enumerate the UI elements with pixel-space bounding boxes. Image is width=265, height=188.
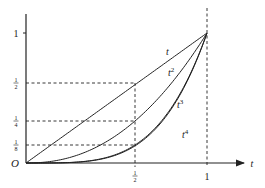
curve-label-t3: t3 <box>177 98 184 110</box>
curve-label-t: t <box>166 46 169 57</box>
frac-den: 4 <box>15 122 18 128</box>
y-label-eighth: 18 <box>14 139 19 152</box>
y-label-1: 1 <box>14 28 19 39</box>
frac-num: 1 <box>15 77 18 83</box>
curve-label-t4: t4 <box>182 128 189 140</box>
frac-den: 2 <box>134 177 137 183</box>
frac-den: 2 <box>15 84 18 90</box>
x-label-half: 12 <box>133 170 138 183</box>
frac-num: 1 <box>134 170 137 176</box>
origin-label: O <box>11 157 19 169</box>
axes <box>23 14 244 163</box>
frac-num: 1 <box>15 115 18 121</box>
frac-den: 8 <box>15 146 18 152</box>
x-axis-label: t <box>251 158 254 169</box>
labels: 1121418121Ottt2t3t4 <box>11 28 254 183</box>
y-label-quarter: 14 <box>14 115 19 128</box>
y-label-half: 12 <box>14 77 19 90</box>
frac-num: 1 <box>15 139 18 145</box>
x-label-1: 1 <box>205 171 210 182</box>
curve-label-t2: t2 <box>168 66 175 78</box>
chart-canvas: 1121418121Ottt2t3t4 <box>0 0 265 188</box>
